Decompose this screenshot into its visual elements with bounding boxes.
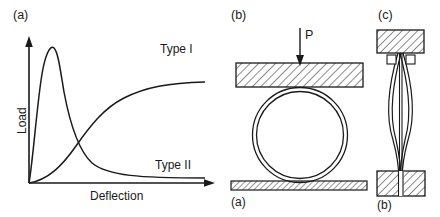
curve-label-type-ii: Type II [155,159,191,171]
panel-a-tag: (a) [13,9,28,22]
panel-b-tag: (b) [231,9,246,22]
y-axis-label: Load [16,107,28,134]
ring-compression-svg [228,0,370,217]
top-platen [236,63,363,87]
x-axis-label: Deflection [90,190,143,202]
panel-a-load-deflection-chart: (a) Type I Type II Load Deflection [0,0,228,217]
bottom-platen [231,181,367,190]
panel-c-collapsed-ring: (c) (b) [370,0,440,217]
chart-svg [0,0,228,217]
figure-container: (a) Type I Type II Load Deflection [0,0,440,217]
panel-b-ring-compression: (b) P (a) [228,0,370,217]
panel-c-tag: (c) [378,9,393,22]
curve-label-type-i: Type I [160,43,193,55]
ring-specimen [253,88,348,183]
panel-b-sub-tag: (a) [231,196,246,208]
force-label-p: P [305,29,313,42]
collapsed-ring-specimen [389,53,413,181]
top-platen [377,30,424,53]
collapsed-ring-svg [370,0,440,217]
panel-c-sub-tag: (b) [377,199,392,211]
load-arrow-p [296,28,304,66]
x-axis [29,179,215,187]
